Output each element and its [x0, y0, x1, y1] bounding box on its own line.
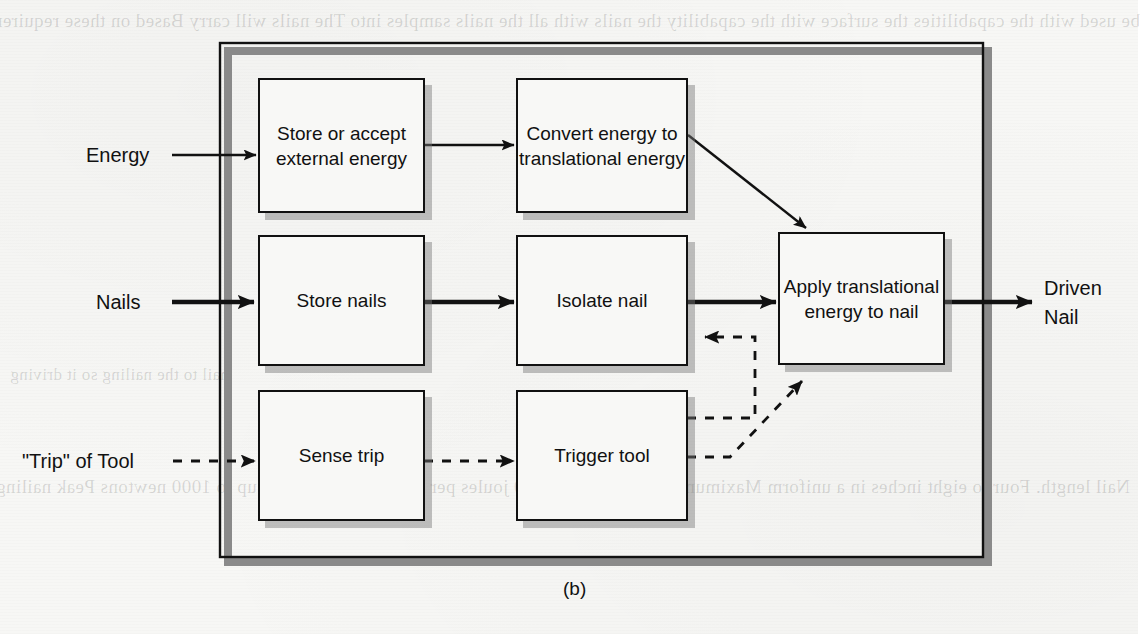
block-sense-trip[interactable]: Sense trip [258, 390, 425, 521]
block-store-nails[interactable]: Store nails [258, 235, 425, 366]
input-label-trip-of-tool: "Trip" of Tool [22, 449, 134, 474]
output-label-driven-nail: Driven Nail [1044, 274, 1102, 332]
block-convert-energy-to-translational-energy[interactable]: Convert energy to translational energy [516, 78, 688, 213]
figure-caption: (b) [563, 578, 586, 600]
connector-convert-energy-to-apply-energy [688, 135, 806, 228]
block-isolate-nail[interactable]: Isolate nail [516, 235, 688, 366]
block-apply-translational-energy-to-nail[interactable]: Apply translational energy to nail [778, 232, 945, 365]
input-label-nails: Nails [96, 290, 140, 315]
input-label-energy: Energy [86, 143, 149, 168]
block-trigger-tool[interactable]: Trigger tool [516, 390, 688, 521]
block-store-accept-external-energy[interactable]: Store or accept external energy [258, 78, 425, 213]
connector-trigger-tool-to-isolate-nail [687, 337, 755, 418]
